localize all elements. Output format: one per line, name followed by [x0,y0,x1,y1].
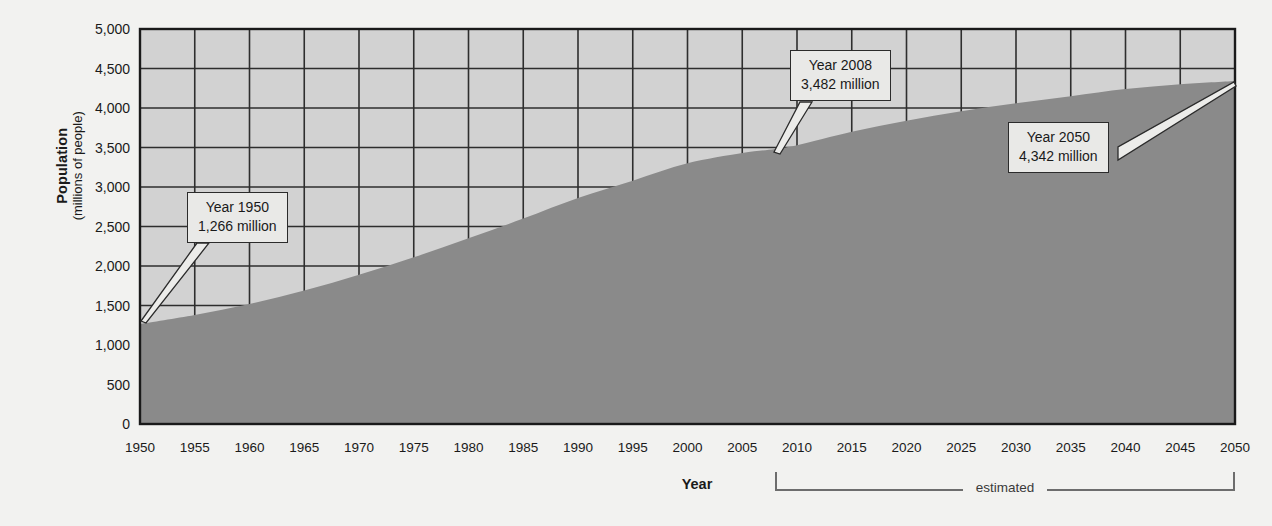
y-axis-tick-2500: 2,500 [10,220,130,234]
x-axis-tick-2020: 2020 [877,440,937,455]
x-axis-tick-1995: 1995 [603,440,663,455]
x-axis-tick-1970: 1970 [329,440,389,455]
x-axis-tick-1960: 1960 [220,440,280,455]
x-axis-tick-1950: 1950 [110,440,170,455]
y-axis-tick-5000: 5,000 [10,22,130,36]
x-axis-tick-1980: 1980 [439,440,499,455]
x-axis-tick-1985: 1985 [493,440,553,455]
bracket-label: estimated [775,480,1235,495]
callout-2008-line2: 3,482 million [801,75,880,94]
y-axis-tick-3500: 3,500 [10,141,130,155]
x-axis-tick-2050: 2050 [1205,440,1265,455]
x-axis-tick-2025: 2025 [931,440,991,455]
y-axis-tick-0: 0 [10,417,130,431]
x-axis-tick-2010: 2010 [767,440,827,455]
x-axis-tick-1955: 1955 [165,440,225,455]
estimated-range-bracket: estimated [775,472,1235,498]
chart-figure: Population (millions of people) 05001,00… [0,0,1272,526]
x-axis-tick-2045: 2045 [1150,440,1210,455]
callout-1950: Year 1950 1,266 million [187,192,288,243]
x-axis-tick-1965: 1965 [274,440,334,455]
x-axis-tick-2015: 2015 [822,440,882,455]
callout-1950-line2: 1,266 million [198,217,277,236]
x-axis-tick-1990: 1990 [548,440,608,455]
callout-2008-line1: Year 2008 [809,57,872,73]
x-axis-tick-2040: 2040 [1096,440,1156,455]
y-axis-tick-500: 500 [10,378,130,392]
y-axis-tick-1500: 1,500 [10,299,130,313]
callout-2050-line1: Year 2050 [1027,129,1090,145]
y-axis-tick-2000: 2,000 [10,259,130,273]
y-axis-tick-3000: 3,000 [10,180,130,194]
y-axis-tick-4000: 4,000 [10,101,130,115]
y-axis-tick-1000: 1,000 [10,338,130,352]
callout-2050-line2: 4,342 million [1019,147,1098,166]
callout-2008: Year 2008 3,482 million [790,50,891,101]
x-axis-tick-2035: 2035 [1041,440,1101,455]
x-axis-tick-2000: 2000 [658,440,718,455]
x-axis-tick-2005: 2005 [712,440,772,455]
x-axis-title: Year [657,476,737,492]
callout-1950-line1: Year 1950 [206,199,269,215]
x-axis-tick-1975: 1975 [384,440,444,455]
callout-2050: Year 2050 4,342 million [1008,122,1109,173]
x-axis-tick-2030: 2030 [986,440,1046,455]
y-axis-tick-4500: 4,500 [10,62,130,76]
